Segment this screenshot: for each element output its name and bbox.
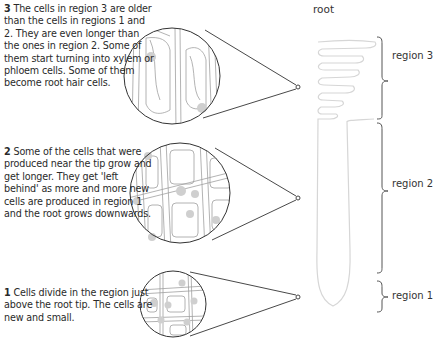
region-2-label: region 2 — [392, 178, 433, 189]
bracket-icons — [377, 37, 388, 312]
region-number: 2 — [4, 146, 11, 157]
region-number: 1 — [4, 287, 11, 298]
region-2-description: 2 Some of the cells that were produced n… — [4, 146, 154, 220]
root-outline — [317, 41, 376, 307]
nucleus-icon — [197, 103, 207, 113]
region-number: 3 — [4, 3, 11, 14]
region-3-description: 3 The cells in region 3 are older than t… — [4, 3, 154, 90]
diagram-title: root — [313, 3, 334, 15]
region-3-label: region 3 — [392, 50, 433, 61]
region-1-description: 1 Cells divide in the region just above … — [4, 287, 154, 324]
region-1-label: region 1 — [392, 290, 433, 301]
